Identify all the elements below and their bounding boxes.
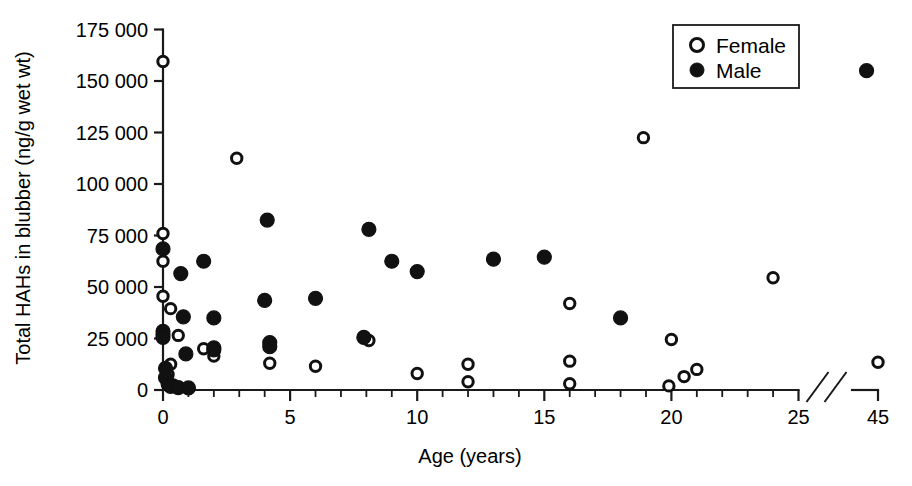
- data-point-female: [565, 298, 575, 308]
- data-point-female: [565, 379, 575, 389]
- data-point-male: [309, 291, 323, 305]
- data-point-male: [179, 347, 193, 361]
- data-point-female: [873, 357, 883, 367]
- x-tick-label: 10: [406, 406, 428, 428]
- x-tick-label: 25: [787, 406, 809, 428]
- data-point-female: [265, 358, 275, 368]
- x-tick-label: 45: [867, 406, 889, 428]
- data-point-female: [666, 334, 676, 344]
- legend-marker-female: [691, 39, 704, 52]
- data-point-male: [537, 250, 551, 264]
- y-tick-label: 150 000: [76, 70, 148, 92]
- data-point-male: [156, 330, 170, 344]
- data-points-group: [156, 56, 883, 395]
- data-point-male: [385, 254, 399, 268]
- scatter-plot-figure: 025 00050 00075 000100 000125 000150 000…: [0, 0, 912, 486]
- y-axis-tick-labels: 025 00050 00075 000100 000125 000150 000…: [76, 19, 148, 402]
- data-point-male: [860, 64, 874, 78]
- data-point-female: [158, 256, 168, 266]
- legend-label-male: Male: [716, 59, 762, 82]
- data-point-male: [207, 343, 221, 357]
- x-axis-tick-labels: 051015202545: [157, 406, 889, 428]
- x-tick-label: 15: [533, 406, 555, 428]
- data-point-female: [463, 359, 473, 369]
- data-point-female: [463, 377, 473, 387]
- data-point-female: [565, 356, 575, 366]
- data-point-male: [357, 330, 371, 344]
- data-point-female: [679, 371, 689, 381]
- data-point-female: [692, 364, 702, 374]
- data-point-female: [768, 273, 778, 283]
- y-tick-label: 50 000: [87, 276, 148, 298]
- y-tick-label: 125 000: [76, 122, 148, 144]
- data-point-male: [486, 252, 500, 266]
- data-point-male: [362, 222, 376, 236]
- y-tick-label: 25 000: [87, 328, 148, 350]
- data-point-female: [158, 56, 168, 66]
- data-point-male: [410, 265, 424, 279]
- data-point-male: [181, 381, 195, 395]
- data-point-male: [156, 242, 170, 256]
- data-point-male: [263, 340, 277, 354]
- x-axis-title: Age (years): [418, 445, 521, 467]
- data-point-female: [158, 228, 168, 238]
- legend-label-female: Female: [716, 34, 786, 57]
- data-point-female: [165, 303, 175, 313]
- data-point-male: [174, 267, 188, 281]
- data-point-female: [173, 330, 183, 340]
- y-tick-label: 175 000: [76, 19, 148, 41]
- data-point-male: [260, 213, 274, 227]
- data-point-female: [664, 381, 674, 391]
- data-point-male: [258, 293, 272, 307]
- x-tick-label: 5: [285, 406, 296, 428]
- data-point-female: [158, 291, 168, 301]
- x-tick-label: 20: [660, 406, 682, 428]
- chart-canvas: 025 00050 00075 000100 000125 000150 000…: [0, 0, 912, 486]
- y-tick-label: 100 000: [76, 173, 148, 195]
- y-tick-label: 0: [137, 379, 148, 401]
- data-point-male: [207, 311, 221, 325]
- y-tick-label: 75 000: [87, 225, 148, 247]
- data-point-male: [176, 310, 190, 324]
- data-point-female: [638, 132, 648, 142]
- legend: Female Male: [673, 25, 799, 88]
- x-tick-label: 0: [157, 406, 168, 428]
- data-point-female: [412, 368, 422, 378]
- data-point-male: [614, 311, 628, 325]
- legend-marker-male: [690, 63, 704, 77]
- data-point-female: [232, 153, 242, 163]
- data-point-male: [197, 254, 211, 268]
- data-point-female: [310, 361, 320, 371]
- y-axis-title: Total HAHs in blubber (ng/g wet wt): [12, 51, 34, 364]
